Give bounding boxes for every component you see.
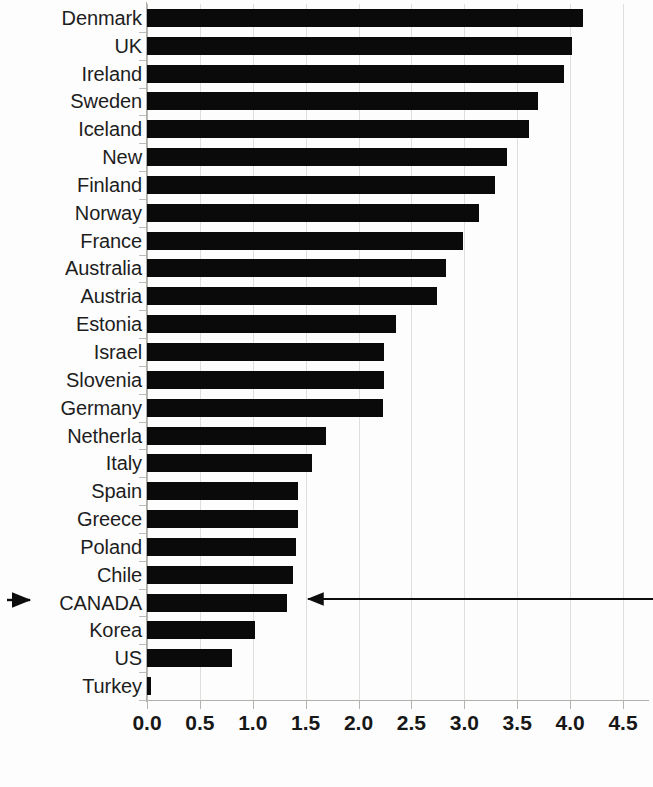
category-axis-labels: DenmarkUKIrelandSwedenIcelandNewFinlandN… bbox=[0, 0, 142, 787]
category-label-greece: Greece bbox=[0, 509, 142, 529]
x-tick-label: 4.0 bbox=[556, 712, 585, 734]
category-label-netherla: Netherla bbox=[0, 426, 142, 446]
x-tick-mark bbox=[517, 700, 518, 709]
x-tick-mark bbox=[359, 700, 360, 709]
bar-netherla bbox=[147, 427, 326, 445]
y-tick-mark bbox=[139, 700, 146, 701]
bar-chile bbox=[147, 566, 293, 584]
bar-us bbox=[147, 649, 232, 667]
category-label-new: New bbox=[0, 147, 142, 167]
x-tick-label: 3.0 bbox=[450, 712, 479, 734]
y-tick-mark bbox=[139, 88, 146, 89]
y-tick-mark bbox=[139, 394, 146, 395]
category-label-israel: Israel bbox=[0, 342, 142, 362]
x-tick-mark bbox=[411, 700, 412, 709]
bar-israel bbox=[147, 343, 384, 361]
x-tick-mark bbox=[200, 700, 201, 709]
category-label-us: US bbox=[0, 648, 142, 668]
x-tick-label: 3.5 bbox=[503, 712, 532, 734]
category-label-korea: Korea bbox=[0, 620, 142, 640]
y-tick-mark bbox=[139, 171, 146, 172]
category-label-iceland: Iceland bbox=[0, 119, 142, 139]
bar-ireland bbox=[147, 65, 564, 83]
plot-area bbox=[147, 4, 623, 700]
category-label-australia: Australia bbox=[0, 258, 142, 278]
bar-estonia bbox=[147, 315, 396, 333]
category-label-chile: Chile bbox=[0, 565, 142, 585]
bar-turkey bbox=[147, 677, 151, 695]
x-tick-label: 1.0 bbox=[238, 712, 267, 734]
y-tick-mark bbox=[139, 589, 146, 590]
y-tick-mark bbox=[139, 616, 146, 617]
y-tick-mark bbox=[139, 143, 146, 144]
y-tick-mark bbox=[139, 561, 146, 562]
y-tick-mark bbox=[139, 672, 146, 673]
y-tick-mark bbox=[139, 533, 146, 534]
x-tick-label: 1.5 bbox=[291, 712, 320, 734]
bar-slovenia bbox=[147, 371, 384, 389]
bar-poland bbox=[147, 538, 296, 556]
bar-sweden bbox=[147, 92, 538, 110]
category-label-estonia: Estonia bbox=[0, 314, 142, 334]
bar-iceland bbox=[147, 120, 529, 138]
category-label-turkey: Turkey bbox=[0, 676, 142, 696]
y-tick-mark bbox=[139, 505, 146, 506]
category-label-france: France bbox=[0, 231, 142, 251]
y-tick-mark bbox=[139, 310, 146, 311]
bar-italy bbox=[147, 454, 312, 472]
x-tick-label: 0.5 bbox=[185, 712, 214, 734]
x-axis-line bbox=[141, 700, 649, 701]
category-label-denmark: Denmark bbox=[0, 8, 142, 28]
category-label-slovenia: Slovenia bbox=[0, 370, 142, 390]
y-tick-mark bbox=[139, 199, 146, 200]
x-tick-mark bbox=[147, 700, 148, 709]
y-tick-mark bbox=[139, 115, 146, 116]
category-label-finland: Finland bbox=[0, 175, 142, 195]
y-tick-mark bbox=[139, 60, 146, 61]
x-tick-label: 2.0 bbox=[344, 712, 373, 734]
y-tick-mark bbox=[139, 366, 146, 367]
x-tick-mark bbox=[253, 700, 254, 709]
x-tick-mark bbox=[570, 700, 571, 709]
y-tick-mark bbox=[139, 255, 146, 256]
gridline-x-4-5 bbox=[623, 4, 624, 700]
bar-denmark bbox=[147, 9, 583, 27]
bar-greece bbox=[147, 510, 298, 528]
category-label-sweden: Sweden bbox=[0, 91, 142, 111]
x-tick-label: 4.5 bbox=[608, 712, 637, 734]
x-tick-mark bbox=[464, 700, 465, 709]
x-tick-label: 2.5 bbox=[397, 712, 426, 734]
y-tick-mark bbox=[139, 32, 146, 33]
category-label-ireland: Ireland bbox=[0, 64, 142, 84]
category-label-canada: CANADA bbox=[0, 593, 142, 613]
bar-korea bbox=[147, 621, 255, 639]
bar-finland bbox=[147, 176, 495, 194]
category-label-spain: Spain bbox=[0, 481, 142, 501]
bar-canada bbox=[147, 594, 287, 612]
bar-uk bbox=[147, 37, 572, 55]
bar-austria bbox=[147, 287, 437, 305]
category-label-germany: Germany bbox=[0, 398, 142, 418]
x-tick-mark bbox=[306, 700, 307, 709]
category-label-austria: Austria bbox=[0, 286, 142, 306]
y-tick-mark bbox=[139, 227, 146, 228]
x-tick-mark bbox=[623, 700, 624, 709]
gridline-x-4 bbox=[570, 4, 571, 700]
bar-norway bbox=[147, 204, 479, 222]
y-tick-mark bbox=[139, 338, 146, 339]
y-tick-mark bbox=[139, 449, 146, 450]
x-tick-label: 0.0 bbox=[132, 712, 161, 734]
y-tick-mark bbox=[139, 477, 146, 478]
bar-germany bbox=[147, 399, 383, 417]
y-tick-mark bbox=[139, 422, 146, 423]
y-tick-mark bbox=[139, 282, 146, 283]
bar-new bbox=[147, 148, 507, 166]
y-tick-mark bbox=[139, 644, 146, 645]
bar-chart: DenmarkUKIrelandSwedenIcelandNewFinlandN… bbox=[0, 0, 653, 787]
category-label-italy: Italy bbox=[0, 453, 142, 473]
bar-spain bbox=[147, 482, 298, 500]
category-label-uk: UK bbox=[0, 36, 142, 56]
category-label-norway: Norway bbox=[0, 203, 142, 223]
bar-australia bbox=[147, 259, 446, 277]
category-label-poland: Poland bbox=[0, 537, 142, 557]
